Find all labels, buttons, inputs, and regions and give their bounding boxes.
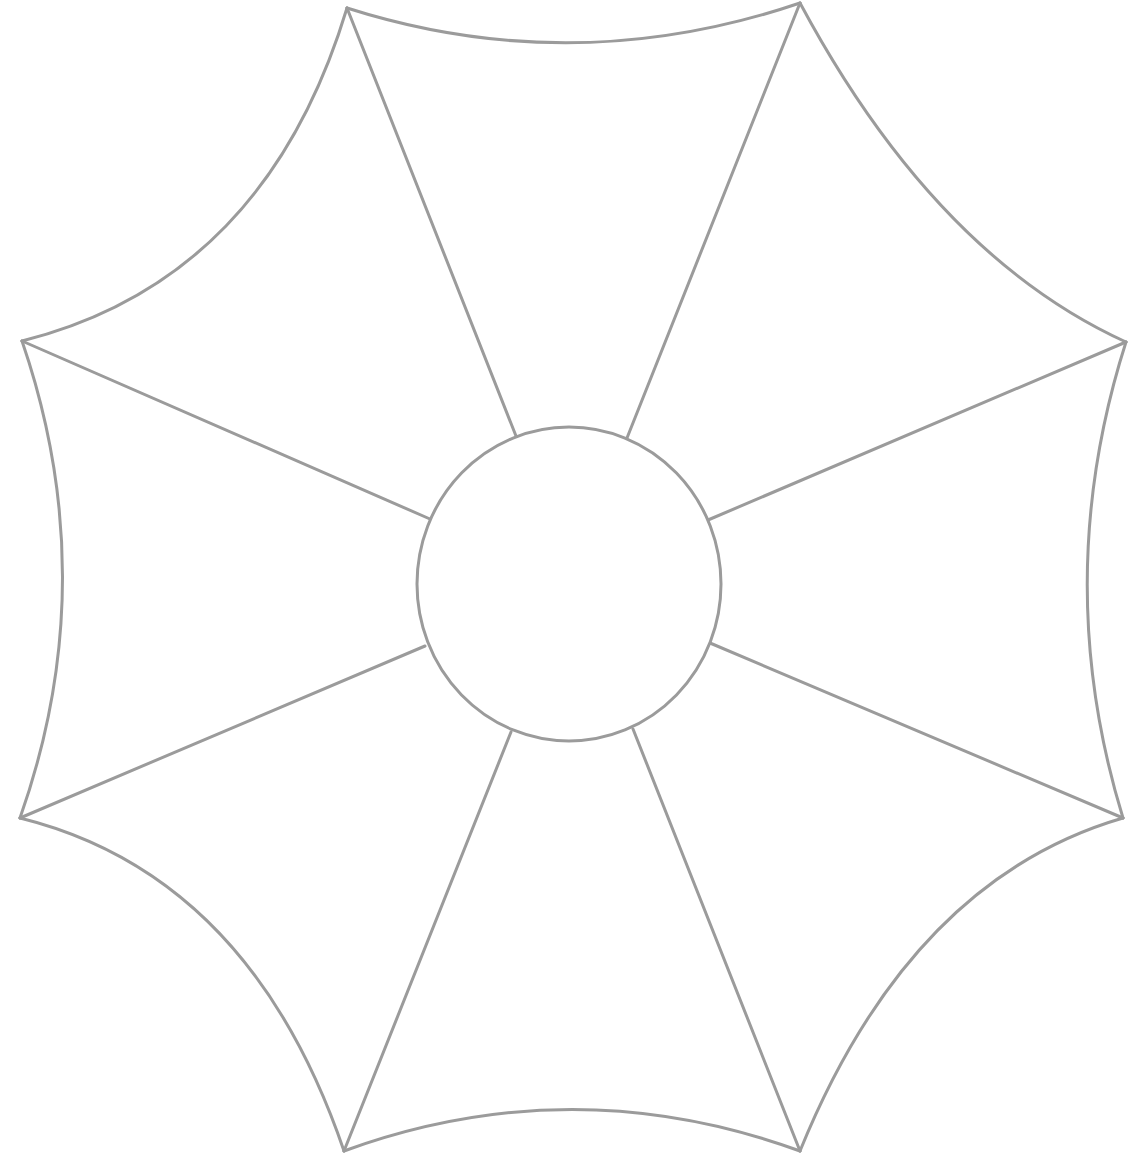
spoke-0 — [347, 8, 516, 436]
outer-edge-1 — [800, 3, 1126, 342]
diagram-canvas — [0, 0, 1147, 1164]
outer-edge-6 — [20, 341, 63, 818]
outer-edge-5 — [20, 818, 344, 1151]
outer-edge-4 — [344, 1110, 800, 1152]
outer-edge-0 — [347, 3, 800, 43]
outer-edge-2 — [1087, 342, 1126, 818]
spoke-1 — [627, 3, 800, 438]
spoke-5 — [344, 732, 511, 1151]
spoke-3 — [710, 643, 1123, 818]
center-circle — [417, 427, 721, 741]
outer-edge-3 — [800, 818, 1123, 1151]
spoke-4 — [633, 729, 800, 1151]
outer-edge-7 — [22, 8, 347, 341]
umbrella-octagon-diagram — [0, 0, 1147, 1164]
spoke-7 — [22, 341, 430, 519]
spoke-2 — [708, 342, 1126, 520]
spoke-6 — [20, 646, 425, 818]
